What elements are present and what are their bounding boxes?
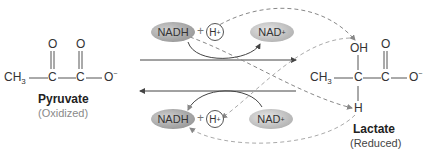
lactate-o-minus: O− bbox=[409, 70, 422, 84]
lactate-name: Lactate bbox=[353, 122, 395, 136]
pyruvate-name: Pyruvate bbox=[38, 92, 89, 106]
pyruvate-carbon-2: C bbox=[76, 70, 85, 84]
nadh-forward: NADH bbox=[151, 22, 195, 42]
pyruvate-ch3: CH3 bbox=[4, 70, 26, 86]
plus-sign: + bbox=[197, 24, 204, 38]
lactate-ch3: CH3 bbox=[310, 70, 332, 86]
proton-reverse: H+ bbox=[206, 110, 224, 128]
lactate-state: (Reduced) bbox=[350, 137, 401, 149]
lactate-hydroxyl: OH bbox=[350, 41, 368, 55]
nad-plus-forward: NAD+ bbox=[250, 22, 294, 42]
nad-plus-reverse: NAD+ bbox=[249, 109, 293, 129]
pyruvate-state: (Oxidized) bbox=[38, 107, 88, 119]
lactate-carbon-2: C bbox=[381, 70, 390, 84]
pyruvate-carbon-1: C bbox=[48, 70, 57, 84]
lactate-hydrogen: H bbox=[354, 101, 363, 115]
pyruvate-keto-oxygen: O bbox=[48, 37, 57, 51]
nadh-reverse: NADH bbox=[151, 109, 195, 129]
lactate-carbon-1: C bbox=[354, 70, 363, 84]
pyruvate-carboxyl-oxygen: O bbox=[76, 37, 85, 51]
plus-sign: + bbox=[197, 111, 204, 125]
pyruvate-o-minus: O− bbox=[104, 70, 117, 84]
proton-forward: H+ bbox=[206, 23, 224, 41]
lactate-carboxyl-oxygen: O bbox=[381, 37, 390, 51]
